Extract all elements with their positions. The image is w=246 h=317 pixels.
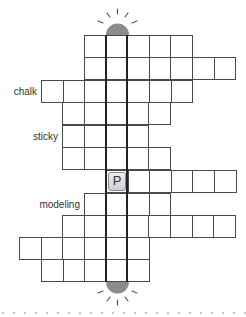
grid-cell[interactable]	[149, 170, 172, 193]
clue-label-chalk: chalk	[14, 86, 37, 98]
clue-label-modeling: modeling	[39, 199, 80, 211]
grid-cell[interactable]	[105, 102, 128, 125]
grid-cell[interactable]	[127, 147, 150, 170]
grid-cell[interactable]	[127, 193, 150, 216]
grid-cell[interactable]	[106, 80, 129, 103]
top-sun-icon	[90, 8, 146, 36]
grid-cell[interactable]	[127, 80, 150, 103]
grid-cell[interactable]	[62, 147, 85, 170]
grid-cell[interactable]	[127, 35, 150, 58]
grid-cell[interactable]	[84, 237, 107, 260]
grid-cell[interactable]	[192, 170, 215, 193]
grid-cell[interactable]	[62, 102, 85, 125]
grid-cell[interactable]	[171, 80, 194, 103]
grid-cell[interactable]	[214, 170, 237, 193]
grid-cell[interactable]	[192, 215, 215, 238]
grid-cell[interactable]	[84, 80, 107, 103]
grid-cell[interactable]	[105, 125, 128, 148]
grid-cell[interactable]	[105, 215, 128, 238]
crossword-board: chalkstickymodeling P	[0, 0, 246, 317]
grid-cell[interactable]	[62, 215, 85, 238]
grid-cell[interactable]	[148, 102, 171, 125]
grid-cell[interactable]	[41, 80, 64, 103]
grid-cell[interactable]	[62, 237, 85, 260]
grid-cell[interactable]	[148, 215, 171, 238]
grid-cell[interactable]	[127, 57, 150, 80]
bottom-sun-icon	[90, 282, 146, 308]
grid-cell[interactable]	[41, 237, 64, 260]
grid-cell[interactable]	[84, 215, 107, 238]
grid-cell[interactable]	[105, 237, 128, 260]
clue-label-sticky: sticky	[33, 131, 58, 143]
grid-cell[interactable]	[213, 215, 236, 238]
grid-cell[interactable]	[128, 170, 151, 193]
grid-cell[interactable]	[84, 35, 107, 58]
grid-cell[interactable]	[214, 57, 237, 80]
grid-cell[interactable]	[127, 237, 150, 260]
grid-cell[interactable]	[170, 215, 193, 238]
grid-cell[interactable]	[149, 57, 172, 80]
letter-tile-p[interactable]: P	[108, 172, 126, 191]
grid-cell[interactable]	[127, 102, 150, 125]
grid-cell[interactable]	[63, 80, 86, 103]
grid-cell[interactable]	[192, 57, 215, 80]
grid-cell[interactable]	[84, 125, 107, 148]
grid-cell[interactable]	[84, 259, 107, 282]
grid-cell[interactable]	[127, 259, 150, 282]
grid-cell[interactable]	[84, 57, 107, 80]
grid-cell[interactable]	[149, 80, 172, 103]
grid-cell[interactable]	[84, 193, 107, 216]
grid-cell[interactable]	[170, 35, 193, 58]
grid-cell[interactable]	[84, 147, 107, 170]
grid-cell[interactable]	[63, 259, 86, 282]
dotted-divider	[0, 309, 246, 317]
grid-cell[interactable]	[62, 125, 85, 148]
grid-cell[interactable]	[171, 170, 194, 193]
grid-cell[interactable]	[149, 35, 172, 58]
grid-cell[interactable]	[148, 147, 171, 170]
grid-cell[interactable]	[170, 57, 193, 80]
grid-cell[interactable]	[106, 193, 129, 216]
grid-cell[interactable]	[106, 35, 129, 58]
grid-cell[interactable]	[19, 237, 42, 260]
grid-cell[interactable]	[105, 147, 128, 170]
grid-cell[interactable]	[106, 259, 129, 282]
grid-cell[interactable]	[127, 215, 150, 238]
grid-cell[interactable]	[84, 102, 107, 125]
grid-cell[interactable]	[41, 259, 64, 282]
grid-cell[interactable]	[149, 193, 172, 216]
grid-cell[interactable]	[106, 57, 129, 80]
grid-cell[interactable]	[127, 125, 150, 148]
